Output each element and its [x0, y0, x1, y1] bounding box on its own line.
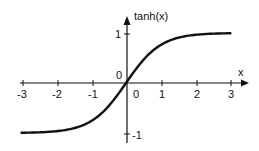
- x-tick-label: 2: [194, 88, 200, 100]
- x-tick-label: -2: [52, 88, 62, 100]
- x-axis-arrow-icon: [241, 80, 249, 87]
- x-tick-label: 1: [159, 88, 165, 100]
- origin-label: 0: [116, 69, 122, 81]
- tanh-chart: tanh(x) x 0 1 -1 -3 -2 -1 0 1 2 3: [0, 0, 259, 151]
- y-tick-label-1: 1: [115, 28, 121, 40]
- x-axis-label: x: [238, 66, 244, 78]
- y-tick-label-neg1: -1: [132, 129, 142, 141]
- x-tick-label: -1: [88, 88, 98, 100]
- y-axis-label: tanh(x): [134, 10, 168, 22]
- x-tick-label: 3: [228, 88, 234, 100]
- x-tick-label: 0: [133, 88, 139, 100]
- y-axis-arrow-icon: [124, 16, 131, 25]
- x-tick-label: -3: [17, 88, 27, 100]
